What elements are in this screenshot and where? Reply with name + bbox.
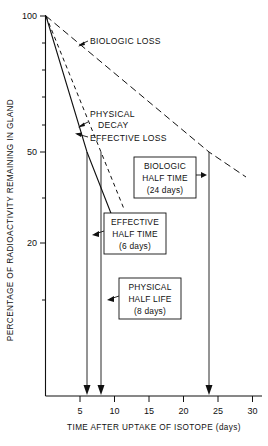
dropline-biologic-24days bbox=[206, 152, 213, 395]
chart-canvas: 100 50 20 5 10 15 20 25 30 TIME AFTER UP… bbox=[0, 0, 268, 446]
annotation-physical-decay: PHYSICAL DECAY bbox=[78, 109, 135, 130]
x-axis-ticks: 5 10 15 20 25 30 bbox=[77, 396, 257, 416]
y-tick-label-50: 50 bbox=[27, 147, 37, 157]
x-tick-label-10: 10 bbox=[109, 406, 119, 416]
callout-physical-half-life-line1: PHYSICAL bbox=[128, 282, 171, 292]
dropline-physical-8days bbox=[98, 152, 105, 395]
axes-group bbox=[46, 15, 263, 396]
callout-physical-half-life-arrowhead bbox=[107, 296, 114, 302]
annotation-physical-decay-label-line1: PHYSICAL bbox=[90, 109, 135, 119]
annotation-effective-loss: EFFECTIVE LOSS bbox=[75, 133, 167, 144]
callout-biologic-half-time-line1: BIOLOGIC bbox=[144, 161, 186, 171]
callout-physical-half-life-line2: HALF LIFE bbox=[128, 294, 171, 304]
dropline-effective-6days-arrowhead bbox=[84, 385, 91, 395]
annotation-effective-loss-arrowhead bbox=[75, 133, 82, 138]
chart-figure: 100 50 20 5 10 15 20 25 30 TIME AFTER UP… bbox=[0, 0, 268, 446]
x-tick-label-25: 25 bbox=[213, 406, 223, 416]
x-tick-label-30: 30 bbox=[247, 406, 257, 416]
y-tick-label-20: 20 bbox=[27, 238, 37, 248]
callout-physical-half-life: PHYSICAL HALF LIFE (8 days) bbox=[107, 278, 181, 319]
x-tick-label-15: 15 bbox=[144, 406, 154, 416]
y-axis-ticks: 100 50 20 bbox=[22, 11, 46, 300]
callout-biologic-half-time-line2: HALF TIME bbox=[142, 173, 188, 183]
callout-biologic-half-time: BIOLOGIC HALF TIME (24 days) bbox=[134, 157, 207, 198]
callout-effective-half-time-arrowhead bbox=[92, 231, 99, 237]
annotation-physical-decay-label-line2: DECAY bbox=[98, 120, 128, 130]
y-axis-title: PERCENTAGE OF RADIOACTIVITY REMAINING IN… bbox=[6, 99, 15, 341]
callout-physical-half-life-line3: (8 days) bbox=[134, 306, 166, 316]
dropline-physical-8days-arrowhead bbox=[98, 385, 105, 395]
annotation-biologic-loss: BIOLOGIC LOSS bbox=[78, 36, 161, 47]
dropline-effective-6days bbox=[84, 152, 91, 395]
callout-effective-half-time-line3: (6 days) bbox=[119, 241, 151, 251]
callout-biologic-half-time-line3: (24 days) bbox=[147, 185, 184, 195]
callout-effective-half-time: EFFECTIVE HALF TIME (6 days) bbox=[92, 213, 166, 254]
x-axis-title: TIME AFTER UPTAKE OF ISOTOPE (days) bbox=[67, 423, 241, 432]
x-tick-label-20: 20 bbox=[178, 406, 188, 416]
x-tick-label-5: 5 bbox=[77, 406, 82, 416]
annotation-effective-loss-label: EFFECTIVE LOSS bbox=[90, 133, 167, 143]
callout-effective-half-time-line1: EFFECTIVE bbox=[111, 217, 159, 227]
callout-biologic-half-time-arrowhead bbox=[201, 172, 207, 178]
annotation-biologic-loss-label: BIOLOGIC LOSS bbox=[90, 36, 161, 46]
annotation-biologic-loss-arrowhead bbox=[78, 42, 85, 47]
dropline-biologic-24days-arrowhead bbox=[206, 385, 213, 395]
y-tick-label-100: 100 bbox=[22, 11, 37, 21]
callout-effective-half-time-line2: HALF TIME bbox=[112, 229, 158, 239]
